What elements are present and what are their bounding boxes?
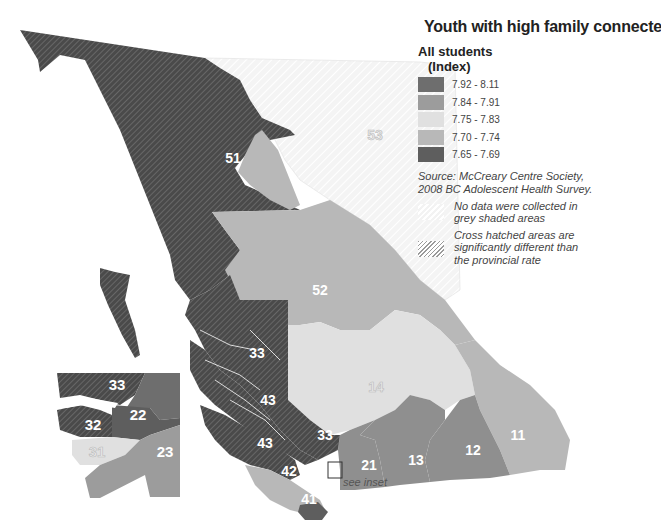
label-43-island: 43 (257, 435, 273, 451)
legend-class-row: 7.70 - 7.74 (418, 129, 661, 147)
label-51: 51 (225, 150, 241, 166)
label-33-north: 33 (249, 345, 265, 361)
label-33-south: 33 (317, 427, 333, 443)
legend: Youth with high family connectedness All… (418, 18, 661, 266)
inset-label-22: 22 (130, 406, 147, 423)
hatch-swatch (418, 241, 444, 257)
legend-classes: 7.92 - 8.11 7.84 - 7.91 7.75 - 7.83 7.70… (418, 76, 661, 164)
legend-class-label: 7.84 - 7.91 (452, 97, 500, 108)
legend-swatch (418, 130, 444, 145)
no-data-swatch (418, 204, 444, 220)
legend-class-row: 7.75 - 7.83 (418, 111, 661, 129)
label-43-coast: 43 (260, 392, 276, 408)
label-12: 12 (465, 442, 481, 458)
source-line2: 2008 BC Adolescent Health Survey. (418, 183, 661, 196)
legend-class-label: 7.65 - 7.69 (452, 149, 500, 160)
no-data-note-text: No data were collected in grey shaded ar… (454, 200, 594, 225)
legend-class-label: 7.75 - 7.83 (452, 114, 500, 125)
label-21: 21 (361, 457, 377, 473)
legend-swatch (418, 95, 444, 110)
legend-class-label: 7.92 - 8.11 (452, 79, 499, 90)
label-53: 53 (367, 127, 383, 143)
legend-group-line2: (Index) (418, 59, 661, 74)
legend-class-row: 7.65 - 7.69 (418, 146, 661, 164)
inset-map: 33 32 22 31 23 (57, 373, 180, 498)
see-inset-label: see inset (343, 476, 388, 488)
source-note: Source: McCreary Centre Society, 2008 BC… (418, 170, 661, 196)
map-title: Youth with high family connectedness (424, 18, 661, 36)
region-51-haida-gwaii[interactable] (100, 268, 140, 358)
legend-class-row: 7.84 - 7.91 (418, 94, 661, 112)
label-14: 14 (368, 379, 384, 395)
inset-label-23: 23 (157, 443, 174, 460)
no-data-note: No data were collected in grey shaded ar… (418, 200, 661, 225)
legend-swatch (418, 112, 444, 127)
label-41: 41 (301, 491, 317, 507)
label-42: 42 (281, 463, 297, 479)
legend-class-row: 7.92 - 8.11 (418, 76, 661, 94)
label-13: 13 (408, 452, 424, 468)
legend-group-title: All students (Index) (418, 44, 661, 74)
legend-swatch (418, 77, 444, 92)
hatch-note: Cross hatched areas are significantly di… (418, 229, 661, 267)
label-52: 52 (312, 282, 328, 298)
inset-label-31: 31 (89, 443, 106, 460)
legend-group-line1: All students (418, 44, 492, 59)
source-line1: Source: McCreary Centre Society, (418, 170, 661, 183)
label-11: 11 (511, 427, 526, 443)
hatch-note-text: Cross hatched areas are significantly di… (454, 229, 594, 267)
legend-swatch (418, 147, 444, 162)
legend-class-label: 7.70 - 7.74 (452, 132, 500, 143)
inset-label-32: 32 (85, 416, 102, 433)
inset-label-33: 33 (109, 376, 126, 393)
